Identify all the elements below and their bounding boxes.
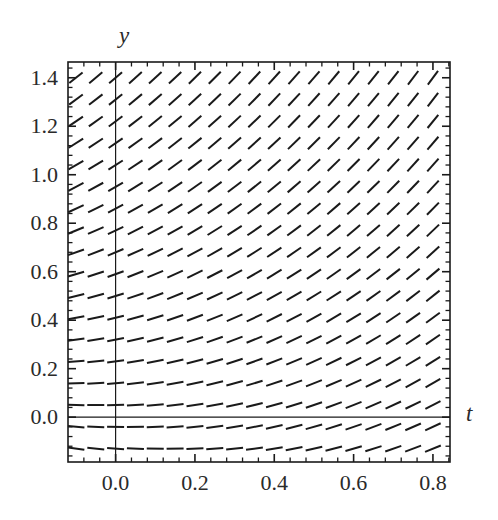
slope-segment [288,115,300,127]
slope-segment [209,94,221,106]
slope-segment [368,71,379,84]
slope-segment [266,381,282,386]
slope-field-figure: 1.4 1.2 1.0 0.8 0.6 0.4 0.2 0.0 0.0 0.2 … [0,0,498,520]
slope-segment [426,313,440,323]
slope-segment [268,203,281,213]
slope-segment [348,93,359,106]
slope-segment [248,94,260,106]
slope-segment [427,181,439,193]
slope-segment [326,424,342,429]
slope-segment [307,269,321,278]
slope-segment [88,294,104,299]
slope-segment [306,402,322,407]
slope-segment [188,160,202,170]
y-tick-label: 0.2 [31,358,59,380]
slope-segment [268,181,281,192]
slope-segment [306,336,321,344]
slope-segment [246,381,262,386]
slope-segment [288,137,300,149]
slope-segment [326,447,342,451]
slope-segment [425,423,440,430]
slope-segment [348,137,360,149]
slope-segment [346,402,362,408]
slope-segment [247,270,262,278]
slope-segment [147,427,164,428]
slope-segment [88,205,103,213]
slope-segment [288,93,300,105]
slope-segment [227,270,242,278]
slope-segment [149,94,162,105]
slope-segment [248,182,261,193]
slope-segment [227,337,243,343]
slope-segment [405,446,421,452]
slope-segment [308,137,320,149]
x-tick-label: 0.6 [340,472,368,494]
x-tick-label: 0.0 [102,472,130,494]
slope-segment [308,93,319,106]
slope-segment [426,335,440,345]
slope-segment [286,403,302,408]
slope-segment [88,271,104,276]
slope-segment [326,336,341,344]
slope-segment [386,313,400,323]
slope-segment [326,358,341,365]
slope-segment [388,137,399,150]
slope-segment [347,247,360,257]
slope-segment [428,93,438,106]
slope-segment [287,314,302,322]
slope-segment [207,315,223,321]
slope-segment [367,269,381,279]
slope-segment [187,293,203,300]
slope-segment [167,337,183,342]
slope-segment [167,271,182,278]
slope-segment [169,116,182,127]
y-tick-label: 0.0 [31,406,59,428]
slope-segment [87,426,104,427]
slope-segment [427,247,440,258]
slope-segment [307,292,322,301]
slope-segment [366,335,381,344]
slope-segment [68,405,84,406]
slope-segment [346,424,362,430]
slope-segment [148,226,163,234]
slope-segment [266,447,283,450]
slope-segment [346,335,361,343]
slope-segment [127,448,144,449]
slope-segment [228,116,240,128]
slope-segment [367,247,380,258]
slope-segment [287,203,300,214]
slope-segment [168,204,182,213]
slope-segment [188,204,202,213]
slope-segment [388,93,399,106]
slope-segment [386,291,400,301]
slope-segment [346,358,361,366]
slope-segment [286,447,303,450]
y-tick-label: 0.8 [31,212,59,234]
slope-segment [68,294,84,298]
slope-segment [228,204,242,214]
slope-segment [89,72,102,83]
slope-segment [326,380,342,387]
slope-segment [87,383,104,384]
slope-segment [248,204,262,214]
slope-segment [307,203,320,214]
slope-segment [406,357,421,366]
slope-segment [367,203,380,215]
slope-segment [187,270,202,277]
slope-segment [367,225,380,236]
slope-segment [386,335,400,344]
slope-segment [149,116,162,127]
slope-segment [288,71,299,84]
slope-segment [228,182,242,192]
y-axis-label: y [119,24,129,47]
slope-segment [268,137,280,149]
slope-segment [147,404,164,406]
slope-segment [248,138,261,149]
slope-segment [148,249,163,256]
slope-segment [188,226,203,235]
slope-segment [327,291,341,300]
slope-segment [426,379,441,387]
x-tick-label: 0.4 [261,472,289,494]
slope-segment [328,181,341,192]
slope-segment [387,181,399,193]
